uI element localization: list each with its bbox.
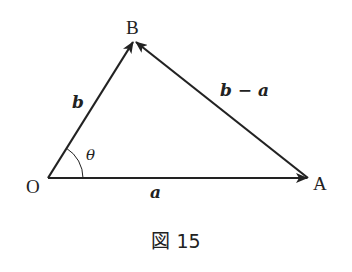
vector-a-label: a: [150, 182, 161, 202]
point-b-label: B: [126, 17, 139, 38]
vector-b-label: b: [72, 92, 84, 112]
vector-b-minus-a-label: b − a: [220, 80, 269, 100]
vector-b-minus-a: [136, 42, 308, 178]
figure-caption: 図 15: [0, 226, 352, 253]
angle-theta-label: θ: [86, 146, 95, 164]
point-o-label: O: [26, 176, 40, 197]
angle-arc: [67, 148, 84, 178]
point-a-label: A: [313, 173, 327, 194]
